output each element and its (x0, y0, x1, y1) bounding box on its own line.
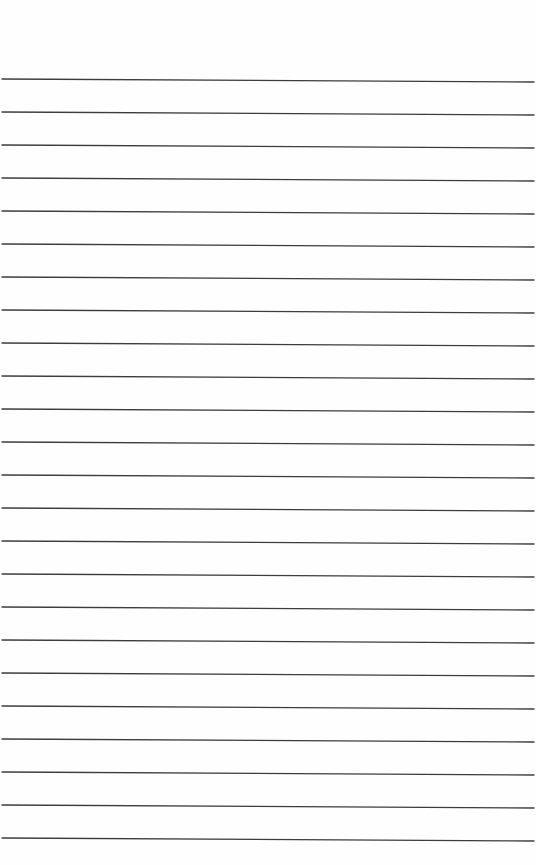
ruled-line (2, 607, 534, 610)
ruled-line (2, 211, 534, 214)
ruled-line (2, 739, 534, 742)
ruled-line (2, 706, 534, 709)
ruled-line (2, 772, 534, 775)
ruled-line (2, 805, 534, 808)
ruled-line (2, 409, 534, 412)
ruled-line (2, 475, 534, 478)
ruled-line (2, 673, 534, 676)
ruled-line (2, 442, 534, 445)
ruled-line (2, 145, 534, 148)
ruled-line (2, 79, 534, 82)
ruled-line (2, 343, 534, 346)
ruled-line (2, 376, 534, 379)
ruled-line (2, 508, 534, 511)
ruled-line (2, 640, 534, 643)
lined-paper-sheet (0, 0, 536, 865)
ruled-line (2, 178, 534, 181)
ruled-line (2, 112, 534, 115)
ruled-lines (0, 0, 536, 865)
ruled-line (2, 244, 534, 247)
ruled-line (2, 541, 534, 544)
ruled-line (2, 838, 534, 841)
ruled-line (2, 574, 534, 577)
ruled-line (2, 310, 534, 313)
ruled-line (2, 277, 534, 280)
